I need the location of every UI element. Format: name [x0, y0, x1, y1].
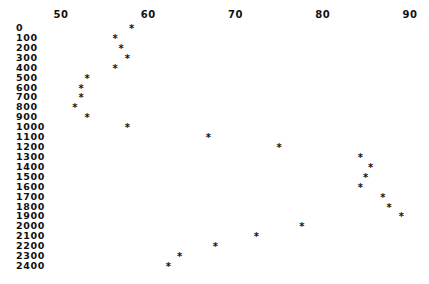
x-tick-label: 90 [403, 9, 418, 20]
data-point-marker: * [363, 173, 368, 183]
data-point-marker: * [299, 222, 304, 232]
data-point-marker: * [358, 153, 363, 163]
data-point-marker: * [386, 203, 391, 213]
data-point-marker: * [380, 193, 385, 203]
data-point-marker: * [125, 123, 130, 133]
data-point-marker: * [78, 93, 83, 103]
x-tick-label: 50 [54, 9, 69, 20]
data-point-marker: * [277, 143, 282, 153]
data-point-marker: * [177, 252, 182, 262]
data-point-marker: * [125, 54, 130, 64]
data-point-marker: * [206, 133, 211, 143]
x-tick-label: 80 [315, 9, 330, 20]
data-point-marker: * [399, 212, 404, 222]
data-point-marker: * [166, 262, 171, 272]
x-tick-label: 60 [141, 9, 156, 20]
data-point-marker: * [254, 232, 259, 242]
data-point-marker: * [368, 163, 373, 173]
data-point-marker: * [85, 113, 90, 123]
data-point-marker: * [119, 44, 124, 54]
data-point-marker: * [72, 103, 77, 113]
scatter-chart: 5060708090 01002003004005006007008009001… [0, 0, 429, 284]
data-point-marker: * [213, 242, 218, 252]
x-tick-label: 70 [228, 9, 243, 20]
data-point-marker: * [129, 24, 134, 34]
data-point-marker: * [358, 183, 363, 193]
data-point-marker: * [112, 34, 117, 44]
y-tick-label: 2400 [16, 261, 45, 271]
data-point-marker: * [85, 74, 90, 84]
data-point-marker: * [112, 64, 117, 74]
